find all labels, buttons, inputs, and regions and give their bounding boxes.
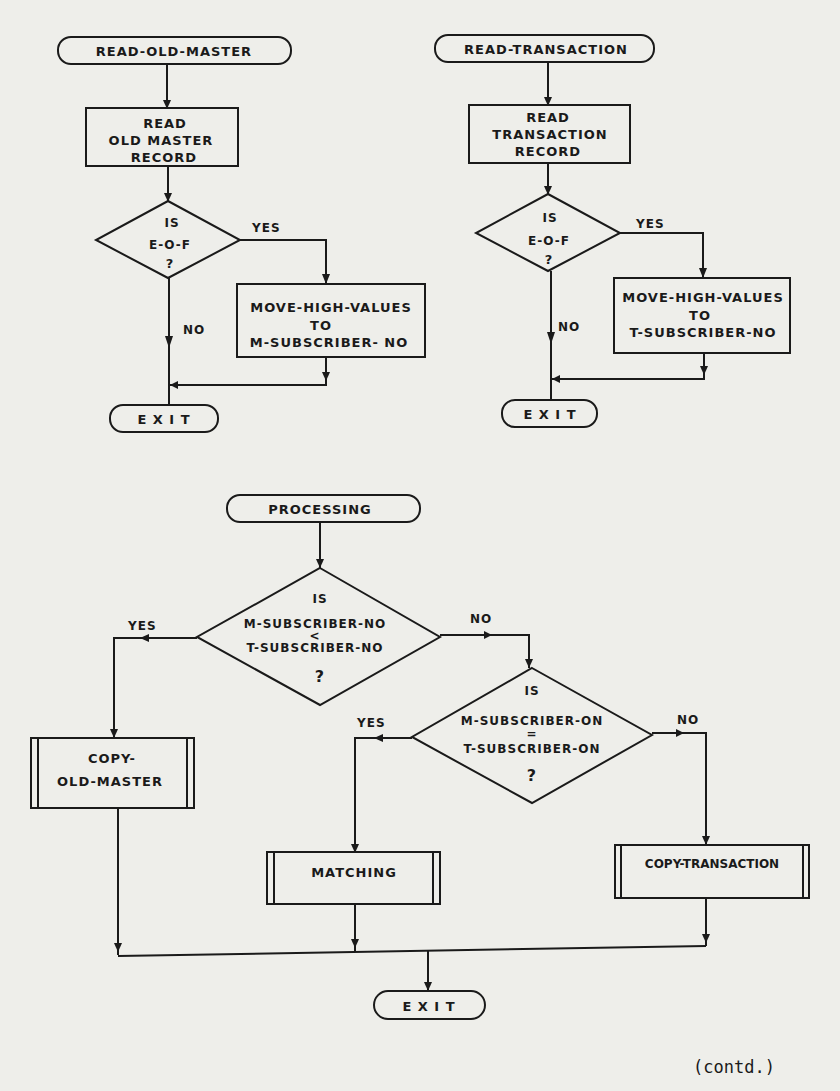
decision-line: T-SUBSCRIBER-NO	[247, 641, 384, 655]
read-transaction-flow: READ-TRANSACTION READ TRANSACTION RECORD…	[435, 35, 790, 427]
action-line: T-SUBSCRIBER-NO	[629, 325, 776, 340]
process-line: RECORD	[131, 150, 197, 165]
decision-line: IS	[164, 216, 179, 230]
no-label: NO	[183, 323, 205, 337]
decision-line: ?	[545, 252, 554, 267]
yes-label: YES	[635, 217, 665, 231]
action-line: TO	[310, 318, 332, 333]
process-line: TRANSACTION	[492, 127, 607, 142]
subroutine-line: COPY-	[88, 751, 136, 766]
decision-line: IS	[524, 684, 539, 698]
yes-label: YES	[127, 619, 157, 633]
process-line: OLD MASTER	[109, 133, 214, 148]
copy-transaction-subroutine	[615, 845, 809, 898]
yes-label: YES	[356, 716, 386, 730]
decision-line: E-O-F	[149, 238, 191, 252]
exit-label: E X I T	[523, 407, 576, 422]
copy-old-master-subroutine	[31, 738, 194, 808]
exit-label: E X I T	[402, 999, 455, 1014]
subroutine-label: MATCHING	[311, 865, 397, 880]
process-line: RECORD	[515, 144, 581, 159]
decision-line: IS	[542, 211, 557, 225]
decision-line: ?	[315, 667, 325, 686]
action-line: MOVE-HIGH-VALUES	[250, 300, 412, 315]
decision-line: E-O-F	[528, 234, 570, 248]
no-label: NO	[470, 612, 492, 626]
start-label: READ-OLD-MASTER	[96, 44, 252, 59]
process-line: READ	[143, 116, 187, 131]
action-line: M-SUBSCRIBER- NO	[250, 335, 409, 350]
decision-line: ?	[527, 766, 537, 785]
decision-line: IS	[312, 592, 327, 606]
no-label: NO	[558, 320, 580, 334]
continued-note: (contd.)	[693, 1057, 775, 1077]
decision-line: T-SUBSCRIBER-ON	[464, 742, 601, 756]
read-old-master-flow: READ-OLD-MASTER READ OLD MASTER RECORD I…	[58, 37, 425, 432]
process-line: READ	[526, 110, 570, 125]
decision-line: ?	[166, 256, 175, 271]
start-label: PROCESSING	[268, 502, 372, 517]
exit-label: E X I T	[137, 412, 190, 427]
flowchart-canvas: READ-OLD-MASTER READ OLD MASTER RECORD I…	[0, 0, 840, 1091]
subroutine-label: COPY-TRANSACTION	[645, 857, 779, 871]
action-line: TO	[689, 308, 711, 323]
yes-label: YES	[251, 221, 281, 235]
start-label: READ-TRANSACTION	[464, 42, 628, 57]
decision-line: =	[526, 727, 537, 741]
processing-flow: PROCESSING IS M-SUBSCRIBER-NO < T-SUBSCR…	[31, 495, 809, 1019]
action-line: MOVE-HIGH-VALUES	[622, 290, 784, 305]
decision-line: M-SUBSCRIBER-ON	[461, 714, 603, 728]
subroutine-line: OLD-MASTER	[57, 774, 163, 789]
no-label: NO	[677, 713, 699, 727]
